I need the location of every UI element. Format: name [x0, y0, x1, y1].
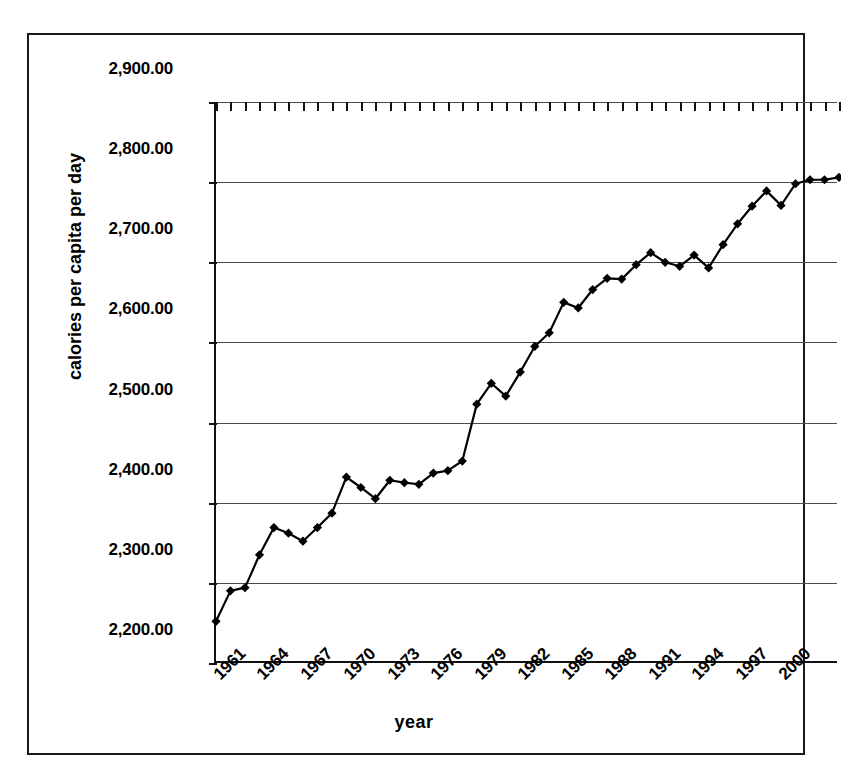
y-tick-label: 2,200.00 — [76, 620, 173, 640]
data-series-line — [216, 102, 839, 663]
y-tick-label: 2,700.00 — [76, 219, 173, 239]
chart-frame: calories per capita per day 2,900.002,80… — [27, 33, 805, 755]
y-tick-label: 2,400.00 — [76, 460, 173, 480]
data-point-marker — [559, 298, 568, 307]
data-point-marker — [284, 529, 293, 538]
data-point-marker — [805, 175, 814, 184]
plot-area — [214, 102, 837, 663]
y-tick-label: 2,800.00 — [76, 139, 173, 159]
data-point-marker — [400, 478, 409, 487]
data-point-marker — [226, 586, 235, 595]
y-axis-title: calories per capita per day — [65, 153, 86, 380]
y-tick-label: 2,900.00 — [76, 59, 173, 79]
y-tick-label: 2,600.00 — [76, 299, 173, 319]
y-tick-label: 2,300.00 — [76, 540, 173, 560]
data-point-marker — [211, 617, 220, 626]
data-point-marker — [269, 523, 278, 532]
data-point-marker — [834, 173, 841, 182]
y-tick-label: 2,500.00 — [76, 380, 173, 400]
data-point-marker — [820, 175, 829, 184]
data-point-marker — [255, 550, 264, 559]
x-axis-title: year — [0, 712, 828, 733]
data-point-marker — [240, 583, 249, 592]
